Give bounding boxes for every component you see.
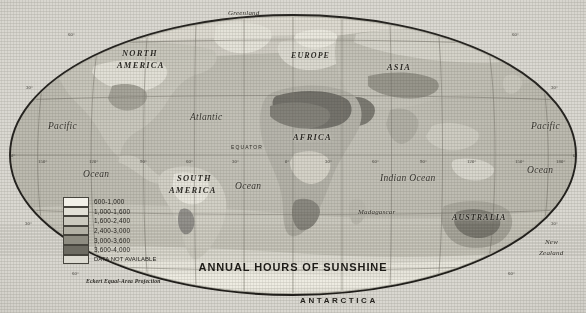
longitude-label-4: 30° <box>232 160 239 165</box>
longitude-label-11: 180° <box>556 160 566 165</box>
label-new-zealand: New <box>545 239 558 246</box>
legend-swatch <box>63 245 89 255</box>
longitude-label-8: 90° <box>420 160 427 165</box>
legend-swatch <box>63 216 89 226</box>
legend-swatch <box>63 235 89 245</box>
label-ocean-west: Ocean <box>83 170 109 180</box>
label-north-america: NORTH <box>122 49 158 58</box>
legend-swatch <box>63 197 89 207</box>
legend: 600-1,0001,000-1,6001,600-2,4002,400-3,0… <box>63 197 156 264</box>
label-asia: ASIA <box>387 63 411 72</box>
label-indian-ocean: Indian Ocean <box>380 174 436 184</box>
label-australia: AUSTRALIA <box>452 214 506 222</box>
label-south-america: SOUTH <box>177 174 212 183</box>
label-atlantic: Atlantic <box>190 113 222 123</box>
legend-label: 1,600-2,400 <box>94 217 130 224</box>
latitude-label-7: 30° <box>551 222 558 227</box>
legend-label: 1,000-1,600 <box>94 208 130 215</box>
longitude-label-6: 30° <box>325 160 332 165</box>
latitude-label-6: 30° <box>25 222 32 227</box>
map-figure: GreenlandNORTHAMERICAEUROPEASIAAFRICASOU… <box>0 0 586 313</box>
legend-label: 3,000-3,600 <box>94 237 130 244</box>
legend-row: 600-1,000 <box>63 197 156 207</box>
equator-label: EQUATOR <box>231 145 263 150</box>
legend-swatch <box>63 207 89 217</box>
projection-note: Eckert Equal-Area Projection <box>86 278 161 284</box>
latitude-label-5: 0° <box>573 154 578 159</box>
longitude-label-7: 60° <box>372 160 379 165</box>
legend-swatch <box>63 226 89 236</box>
label-ocean-atl: Ocean <box>235 182 261 192</box>
legend-row: 2,400-3,000 <box>63 226 156 236</box>
legend-label: 2,400-3,000 <box>94 227 130 234</box>
latitude-label-0: 60° <box>68 33 75 38</box>
label-south-america2: AMERICA <box>169 186 217 195</box>
label-pacific-east: Pacific <box>531 122 560 132</box>
latitude-label-3: 30° <box>551 86 558 91</box>
label-pacific-west: Pacific <box>48 122 77 132</box>
label-madagascar: Madagascar <box>358 209 395 216</box>
longitude-label-9: 120° <box>467 160 477 165</box>
latitude-label-2: 30° <box>26 86 33 91</box>
longitude-label-5: 0° <box>285 160 290 165</box>
label-north-america2: AMERICA <box>117 61 165 70</box>
label-europe: EUROPE <box>291 52 330 60</box>
legend-label: 3,600-4,000 <box>94 246 130 253</box>
label-antarctica: ANTARCTICA <box>300 297 378 305</box>
label-ocean-east: Ocean <box>527 166 553 176</box>
map-title: ANNUAL HOURS OF SUNSHINE <box>0 261 586 273</box>
latitude-label-1: 60° <box>512 33 519 38</box>
label-africa: AFRICA <box>293 133 332 142</box>
longitude-label-2: 90° <box>140 160 147 165</box>
longitude-label-10: 150° <box>515 160 525 165</box>
label-greenland: Greenland <box>228 10 259 17</box>
longitude-label-0: 150° <box>38 160 48 165</box>
legend-row: 1,600-2,400 <box>63 216 156 226</box>
longitude-label-1: 120° <box>89 160 99 165</box>
legend-label: 600-1,000 <box>94 198 125 205</box>
legend-row: 3,600-4,000 <box>63 245 156 255</box>
latitude-label-4: 0° <box>11 154 16 159</box>
legend-row: 3,000-3,600 <box>63 235 156 245</box>
label-new-zealand2: Zealand <box>539 250 563 257</box>
longitude-label-3: 60° <box>186 160 193 165</box>
legend-row: 1,000-1,600 <box>63 207 156 217</box>
